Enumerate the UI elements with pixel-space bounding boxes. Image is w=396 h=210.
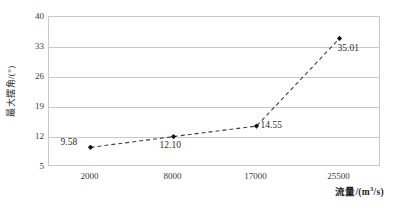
series-line-chart [49, 17, 381, 167]
data-point-label: 14.55 [261, 120, 282, 130]
data-point-marker [337, 36, 342, 41]
y-axis-tick-labels: 51219263340 [0, 16, 44, 166]
y-axis-tick-label: 5 [2, 162, 44, 171]
x-axis-tick-label: 17000 [221, 170, 291, 182]
series-line [91, 38, 340, 147]
data-point-label: 9.58 [61, 137, 78, 147]
x-axis-tick-labels: 200080001700025500 [48, 170, 380, 186]
x-axis-title: 流量/(m3/s) [335, 186, 384, 198]
y-axis-tick-label: 33 [2, 42, 44, 51]
x-axis-title-main: 流量/(m [335, 187, 370, 197]
y-axis-tick-label: 26 [2, 72, 44, 81]
data-point-marker [171, 134, 176, 139]
chart-container: 最大摆角/(°) 51219263340 9.5812.1014.5535.01… [0, 0, 396, 210]
y-axis-tick-label: 40 [2, 12, 44, 21]
x-axis-title-tail: /s) [374, 187, 384, 197]
x-axis-tick-label: 8000 [138, 170, 208, 182]
x-axis-tick-label: 2000 [55, 170, 125, 182]
plot-area: 9.5812.1014.5535.01 [48, 16, 380, 166]
y-axis-tick-label: 12 [2, 132, 44, 141]
data-point-marker [88, 145, 93, 150]
y-axis-tick-label: 19 [2, 102, 44, 111]
data-point-label: 35.01 [338, 43, 359, 53]
data-point-label: 12.10 [160, 140, 181, 150]
x-axis-tick-label: 25500 [304, 170, 374, 182]
